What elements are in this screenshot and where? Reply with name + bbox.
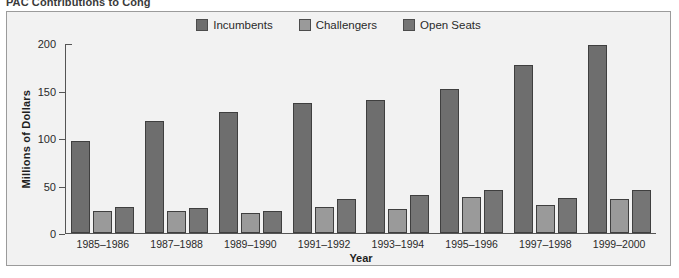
x-axis-line <box>65 233 656 234</box>
bar[interactable] <box>219 112 238 233</box>
bar[interactable] <box>167 211 186 233</box>
bar[interactable] <box>93 211 112 233</box>
bar[interactable] <box>241 213 260 233</box>
bar[interactable] <box>410 195 429 233</box>
x-tick-label: 1997–1998 <box>519 238 572 250</box>
bar[interactable] <box>632 190 651 233</box>
bar[interactable] <box>484 190 503 233</box>
legend-item[interactable]: Incumbents <box>196 19 272 31</box>
bar[interactable] <box>440 89 459 233</box>
y-tick-label: 100 <box>38 133 56 145</box>
x-axis-title: Year <box>66 252 656 264</box>
legend-label: Open Seats <box>420 19 481 31</box>
bar[interactable] <box>145 121 164 233</box>
x-tick-label: 1995–1996 <box>445 238 498 250</box>
x-tick-label: 1989–1990 <box>224 238 277 250</box>
x-tick-label: 1991–1992 <box>298 238 351 250</box>
bar[interactable] <box>610 199 629 233</box>
bar[interactable] <box>388 209 407 233</box>
bar[interactable] <box>315 207 334 233</box>
bar-group <box>440 44 503 233</box>
y-tick-label: 50 <box>44 181 56 193</box>
y-tick-mark <box>59 187 65 188</box>
bar[interactable] <box>189 208 208 234</box>
bar-groups <box>66 44 656 233</box>
plot-area: 050100150200 <box>65 44 656 234</box>
legend-item[interactable]: Challengers <box>299 19 377 31</box>
bar[interactable] <box>263 211 282 233</box>
y-tick-label: 0 <box>50 228 56 240</box>
y-tick-mark <box>59 139 65 140</box>
bar-group <box>514 44 577 233</box>
bar[interactable] <box>293 103 312 233</box>
legend-swatch-icon <box>403 19 415 31</box>
legend-label: Challengers <box>316 19 377 31</box>
bar[interactable] <box>514 65 533 233</box>
legend-swatch-icon <box>299 19 311 31</box>
legend-label: Incumbents <box>213 19 272 31</box>
bar[interactable] <box>337 199 356 233</box>
y-tick-mark <box>59 92 65 93</box>
bar[interactable] <box>115 207 134 233</box>
y-tick-label: 200 <box>38 38 56 50</box>
page-headline: PAC Contributions to Cong <box>6 0 306 8</box>
bar[interactable] <box>536 205 555 233</box>
x-axis-labels: 1985–19861987–19881989–19901991–19921993… <box>66 238 656 250</box>
bar[interactable] <box>366 100 385 233</box>
bar[interactable] <box>588 45 607 233</box>
y-tick-label: 150 <box>38 86 56 98</box>
bar[interactable] <box>71 141 90 233</box>
legend-swatch-icon <box>196 19 208 31</box>
bar-group <box>588 44 651 233</box>
bar-group <box>219 44 282 233</box>
bar-group <box>293 44 356 233</box>
y-axis-title: Millions of Dollars <box>20 44 32 234</box>
x-tick-label: 1985–1986 <box>77 238 130 250</box>
chart-legend: IncumbentsChallengersOpen Seats <box>7 19 670 31</box>
bar[interactable] <box>462 197 481 233</box>
bar[interactable] <box>558 198 577 233</box>
x-tick-label: 1999–2000 <box>593 238 646 250</box>
bar-group <box>145 44 208 233</box>
bar-group <box>71 44 134 233</box>
bar-group <box>366 44 429 233</box>
x-tick-label: 1987–1988 <box>150 238 203 250</box>
x-tick-label: 1993–1994 <box>372 238 425 250</box>
legend-item[interactable]: Open Seats <box>403 19 481 31</box>
y-axis-title-text: Millions of Dollars <box>20 90 32 189</box>
y-tick-mark <box>59 234 65 235</box>
chart-figure: IncumbentsChallengersOpen Seats Millions… <box>6 11 671 266</box>
